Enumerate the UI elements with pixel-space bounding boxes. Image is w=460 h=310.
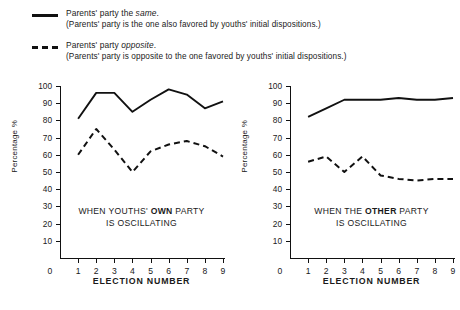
chart-left-y-axis-label: Percentage % [10, 67, 19, 120]
x-tick-label: 4 [125, 266, 139, 276]
chart-left-plot-area [60, 86, 227, 258]
y-tick-label: 50 [273, 167, 282, 177]
x-tick-label: 6 [392, 266, 406, 276]
y-tick-label: 60 [43, 150, 52, 160]
chart-left-x-axis-label: ELECTION NUMBER [60, 276, 223, 286]
annotation-prefix: WHEN THE [314, 206, 365, 216]
x-tick-label: 7 [410, 266, 424, 276]
figure-root: Parents' party the same. (Parents' party… [0, 0, 460, 310]
x-tick-label: 8 [198, 266, 212, 276]
chart-right-y-axis-ticks: 100908070605040302010 [256, 86, 286, 258]
x-tick-label: 6 [162, 266, 176, 276]
series-canvas [290, 86, 457, 258]
chart-right-x-axis-label: ELECTION NUMBER [290, 276, 453, 286]
legend-same-post: . [157, 8, 159, 18]
legend-entry-same-title: Parents' party the same. [66, 8, 432, 19]
series-line-opposite [308, 157, 453, 181]
y-tick-label: 20 [43, 219, 52, 229]
x-tick-label: 7 [180, 266, 194, 276]
y-tick-label: 80 [273, 115, 282, 125]
x-tick-mark [151, 258, 152, 263]
chart-left-x-axis-line [60, 258, 225, 259]
x-tick-label: 3 [337, 266, 351, 276]
x-tick-label: 0 [273, 266, 287, 276]
x-tick-mark [114, 258, 115, 263]
series-line-same [78, 89, 223, 118]
chart-right-x-axis-line [290, 258, 455, 259]
legend-opposite-post: . [154, 40, 156, 50]
x-tick-mark [187, 258, 188, 263]
x-tick-mark [399, 258, 400, 263]
y-tick-label: 10 [273, 236, 282, 246]
annotation-emphasis: OTHER [365, 206, 397, 216]
chart-right-annotation: WHEN THE OTHER PARTYIS OSCILLATING [290, 205, 453, 229]
x-tick-label: 0 [43, 266, 57, 276]
y-tick-label: 30 [43, 201, 52, 211]
chart-left-y-axis-ticks: 100908070605040302010 [26, 86, 56, 258]
legend-same-italic: same [136, 8, 157, 18]
series-line-same [308, 98, 453, 117]
x-tick-mark [417, 258, 418, 263]
series-canvas [60, 86, 227, 258]
legend-opposite-pre: Parents' party [66, 40, 121, 50]
x-tick-label: 3 [107, 266, 121, 276]
x-tick-label: 4 [355, 266, 369, 276]
legend-swatch-dashed-line-icon [32, 46, 58, 49]
x-tick-mark [435, 258, 436, 263]
y-tick-label: 50 [43, 167, 52, 177]
legend-opposite-italic: opposite [121, 40, 153, 50]
figure-legend: Parents' party the same. (Parents' party… [32, 8, 432, 72]
x-tick-label: 9 [446, 266, 460, 276]
x-tick-label: 1 [301, 266, 315, 276]
x-tick-mark [205, 258, 206, 263]
chart-right-plot-area [290, 86, 457, 258]
x-tick-label: 8 [428, 266, 442, 276]
annotation-line-1: WHEN THE OTHER PARTY [290, 205, 453, 217]
legend-entry-opposite-title: Parents' party opposite. [66, 40, 432, 51]
y-tick-label: 60 [273, 150, 282, 160]
annotation-line-2: IS OSCILLATING [290, 217, 453, 229]
x-tick-mark [132, 258, 133, 263]
x-tick-label: 2 [89, 266, 103, 276]
annotation-line-1: WHEN YOUTHS' OWN PARTY [60, 205, 223, 217]
chart-right-y-axis-label: Percentage % [240, 67, 249, 120]
x-tick-label: 1 [71, 266, 85, 276]
legend-entry-same-subtitle: (Parents' party is the one also favored … [66, 19, 432, 30]
y-tick-label: 100 [38, 81, 52, 91]
annotation-emphasis: OWN [151, 206, 173, 216]
legend-swatch-solid-line-icon [32, 14, 58, 17]
x-tick-mark [381, 258, 382, 263]
x-tick-mark [169, 258, 170, 263]
y-tick-label: 40 [273, 184, 282, 194]
x-tick-mark [78, 258, 79, 263]
x-tick-label: 5 [374, 266, 388, 276]
y-tick-label: 70 [43, 133, 52, 143]
annotation-suffix: PARTY [397, 206, 429, 216]
x-tick-label: 5 [144, 266, 158, 276]
y-tick-label: 40 [43, 184, 52, 194]
x-tick-mark [308, 258, 309, 263]
y-tick-label: 100 [268, 81, 282, 91]
legend-same-pre: Parents' party the [66, 8, 136, 18]
x-tick-mark [344, 258, 345, 263]
y-tick-label: 80 [43, 115, 52, 125]
chart-left-annotation: WHEN YOUTHS' OWN PARTYIS OSCILLATING [60, 205, 223, 229]
y-tick-label: 70 [273, 133, 282, 143]
legend-entry-opposite: Parents' party opposite. (Parents' party… [32, 40, 432, 62]
x-tick-label: 2 [319, 266, 333, 276]
series-line-opposite [78, 129, 223, 172]
x-tick-label: 9 [216, 266, 230, 276]
annotation-suffix: PARTY [173, 206, 205, 216]
legend-entry-same: Parents' party the same. (Parents' party… [32, 8, 432, 30]
x-tick-mark [362, 258, 363, 263]
annotation-prefix: WHEN YOUTHS' [78, 206, 150, 216]
annotation-line-2: IS OSCILLATING [60, 217, 223, 229]
x-tick-mark [96, 258, 97, 263]
y-tick-label: 10 [43, 236, 52, 246]
legend-entry-opposite-subtitle: (Parents' party is opposite to the one f… [66, 51, 432, 62]
x-tick-mark [453, 258, 454, 263]
y-tick-label: 90 [43, 98, 52, 108]
y-tick-label: 30 [273, 201, 282, 211]
y-tick-label: 20 [273, 219, 282, 229]
y-tick-label: 90 [273, 98, 282, 108]
